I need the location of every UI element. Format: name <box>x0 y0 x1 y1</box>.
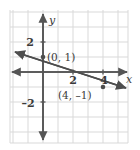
graph-screenshot: y x 2 –2 2 4 (0, 1) (4, –1) <box>0 0 140 150</box>
coordinate-plane-figure: y x 2 –2 2 4 (0, 1) (4, –1) <box>0 0 140 150</box>
y-axis-label: y <box>48 14 56 27</box>
point-0-1 <box>41 55 46 60</box>
y-tick-label-2: 2 <box>26 36 34 49</box>
x-tick-label-4: 4 <box>100 74 108 87</box>
x-tick-label-2: 2 <box>69 74 77 87</box>
point-label-4-neg1: (4, –1) <box>58 89 91 101</box>
y-tick-label-neg2: –2 <box>21 97 34 110</box>
x-axis-label: x <box>126 73 133 86</box>
point-label-0-1: (0, 1) <box>47 51 75 63</box>
